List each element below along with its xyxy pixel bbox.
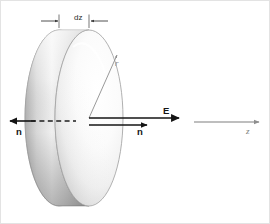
normal-right-label: n [137,127,143,137]
z-axis-label: z [246,127,250,136]
physics-diagram-disk-flux: dz r E n n z [0,0,270,224]
diagram-canvas [1,1,270,224]
normal-left-label: n [16,127,22,137]
radius-label: r [115,59,119,68]
electric-field-label: E [163,106,169,116]
thickness-label: dz [74,14,82,22]
